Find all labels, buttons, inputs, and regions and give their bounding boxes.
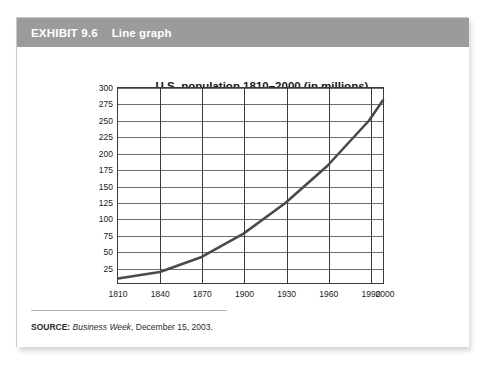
x-tick-label: 1810	[109, 289, 128, 299]
x-tick-label: 1930	[277, 289, 296, 299]
x-tick-label: 2000	[376, 289, 395, 299]
plot-area: 255075100125150175200225250275300 181018…	[117, 87, 384, 284]
exhibit-header-bar: EXHIBIT 9.6 Line graph	[17, 18, 469, 47]
source-divider	[31, 310, 227, 311]
x-tick-label: 1900	[235, 289, 254, 299]
y-tick-label: 250	[99, 116, 113, 126]
source-note: SOURCE: Business Week, December 15, 2003…	[31, 322, 213, 332]
chart-area: U.S. population 1810–2000 (in millions) …	[17, 47, 469, 347]
x-tick-label: 1870	[193, 289, 212, 299]
page-background: EXHIBIT 9.6 Line graph U.S. population 1…	[0, 0, 487, 368]
y-tick-label: 25	[104, 264, 113, 274]
y-tick-label: 200	[99, 149, 113, 159]
x-tick-label: 1960	[319, 289, 338, 299]
source-label: SOURCE:	[31, 322, 70, 332]
y-tick-label: 100	[99, 214, 113, 224]
y-tick-label: 125	[99, 198, 113, 208]
y-tick-label: 150	[99, 182, 113, 192]
source-date: , December 15, 2003.	[131, 322, 213, 332]
y-tick-label: 75	[104, 231, 113, 241]
line-series	[118, 88, 383, 283]
exhibit-card: EXHIBIT 9.6 Line graph U.S. population 1…	[16, 17, 468, 347]
x-tick-label: 1840	[151, 289, 170, 299]
y-tick-label: 175	[99, 165, 113, 175]
y-tick-label: 50	[104, 247, 113, 257]
source-publication: Business Week	[73, 322, 131, 332]
y-tick-label: 225	[99, 132, 113, 142]
y-tick-label: 300	[99, 83, 113, 93]
y-tick-label: 275	[99, 99, 113, 109]
exhibit-title: Line graph	[112, 27, 172, 39]
exhibit-number: EXHIBIT 9.6	[31, 27, 98, 39]
